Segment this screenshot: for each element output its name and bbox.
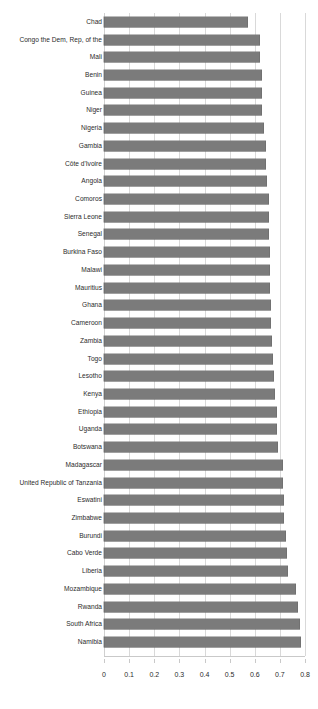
bar[interactable] xyxy=(104,247,270,258)
bar[interactable] xyxy=(104,477,283,488)
x-tick-label: 0 xyxy=(102,671,106,678)
category-label: United Republic of Tanzania xyxy=(0,479,102,487)
category-label: Sierra Leone xyxy=(0,213,102,221)
bar[interactable] xyxy=(104,335,272,346)
category-label: Eswatini xyxy=(0,496,102,504)
bar[interactable] xyxy=(104,140,266,151)
chart-row: Ghana xyxy=(0,297,318,315)
bar[interactable] xyxy=(104,513,284,524)
chart-row: Malawi xyxy=(0,261,318,279)
category-label: Mauritius xyxy=(0,284,102,292)
chart-row: Namibia xyxy=(0,633,318,651)
category-label: Mozambique xyxy=(0,585,102,593)
bar[interactable] xyxy=(104,619,300,630)
category-label: Guinea xyxy=(0,89,102,97)
bar[interactable] xyxy=(104,495,284,506)
category-label: Senegal xyxy=(0,230,102,238)
chart-row: Congo the Dem, Rep, of the xyxy=(0,31,318,49)
category-label: South Africa xyxy=(0,620,102,628)
chart-row: Sierra Leone xyxy=(0,208,318,226)
category-label: Madagascar xyxy=(0,461,102,469)
category-label: Ghana xyxy=(0,301,102,309)
category-label: Mali xyxy=(0,53,102,61)
bar[interactable] xyxy=(104,371,274,382)
bar[interactable] xyxy=(104,16,248,27)
x-tick-label: 0.6 xyxy=(250,671,260,678)
chart-row: Liberia xyxy=(0,562,318,580)
bar[interactable] xyxy=(104,87,262,98)
x-tick-mark xyxy=(154,659,155,663)
category-label: Kenya xyxy=(0,390,102,398)
bar[interactable] xyxy=(104,264,270,275)
bar[interactable] xyxy=(104,318,271,329)
bar[interactable] xyxy=(104,176,267,187)
chart-row: Zimbabwe xyxy=(0,509,318,527)
category-label: Burkina Faso xyxy=(0,248,102,256)
category-label: Chad xyxy=(0,18,102,26)
bar[interactable] xyxy=(104,194,269,205)
x-tick-mark xyxy=(179,659,180,663)
x-tick-mark xyxy=(255,659,256,663)
x-tick-mark xyxy=(129,659,130,663)
bar[interactable] xyxy=(104,406,277,417)
bar[interactable] xyxy=(104,530,286,541)
bar[interactable] xyxy=(104,583,296,594)
chart-row: Côte d'Ivoire xyxy=(0,155,318,173)
category-label: Namibia xyxy=(0,638,102,646)
chart-row: Niger xyxy=(0,102,318,120)
chart-row: Nigeria xyxy=(0,119,318,137)
category-label: Côte d'Ivoire xyxy=(0,160,102,168)
bar[interactable] xyxy=(104,211,269,222)
category-label: Rwanda xyxy=(0,603,102,611)
bar[interactable] xyxy=(104,105,262,116)
category-label: Cabo Verde xyxy=(0,549,102,557)
bar[interactable] xyxy=(104,566,288,577)
x-tick-mark xyxy=(280,659,281,663)
category-label: Congo the Dem, Rep, of the xyxy=(0,36,102,44)
category-label: Togo xyxy=(0,355,102,363)
category-label: Benin xyxy=(0,71,102,79)
bar[interactable] xyxy=(104,459,283,470)
chart-row: United Republic of Tanzania xyxy=(0,474,318,492)
bar[interactable] xyxy=(104,282,270,293)
x-axis-tick-labels: 00.10.20.30.40.50.60.70.8 xyxy=(0,659,318,679)
chart-row: Kenya xyxy=(0,385,318,403)
bar[interactable] xyxy=(104,158,266,169)
category-label: Zambia xyxy=(0,337,102,345)
chart-row: Guinea xyxy=(0,84,318,102)
bar[interactable] xyxy=(104,52,260,63)
bar[interactable] xyxy=(104,601,298,612)
chart-row: Botswana xyxy=(0,438,318,456)
category-label: Malawi xyxy=(0,266,102,274)
chart-row: Cameroon xyxy=(0,314,318,332)
chart-row: Chad xyxy=(0,13,318,31)
chart-row: Rwanda xyxy=(0,598,318,616)
chart-row: Togo xyxy=(0,350,318,368)
bar[interactable] xyxy=(104,34,260,45)
bar[interactable] xyxy=(104,70,262,81)
bar[interactable] xyxy=(104,229,269,240)
x-tick-label: 0.5 xyxy=(225,671,235,678)
x-tick-mark xyxy=(205,659,206,663)
bar[interactable] xyxy=(104,123,264,134)
category-label: Burundi xyxy=(0,532,102,540)
bar[interactable] xyxy=(104,388,275,399)
bar[interactable] xyxy=(104,637,301,648)
chart-row: Benin xyxy=(0,66,318,84)
bar[interactable] xyxy=(104,300,271,311)
bar[interactable] xyxy=(104,442,278,453)
chart-row: Senegal xyxy=(0,226,318,244)
category-label: Ethiopia xyxy=(0,408,102,416)
category-label: Niger xyxy=(0,106,102,114)
x-tick-label: 0.7 xyxy=(275,671,285,678)
category-label: Gambia xyxy=(0,142,102,150)
category-label: Nigeria xyxy=(0,124,102,132)
bar[interactable] xyxy=(104,548,287,559)
bar[interactable] xyxy=(104,353,273,364)
bar[interactable] xyxy=(104,424,277,435)
x-tick-mark xyxy=(104,659,105,663)
chart-row: Eswatini xyxy=(0,491,318,509)
chart-row: Mauritius xyxy=(0,279,318,297)
chart-row: Angola xyxy=(0,172,318,190)
chart-row: Gambia xyxy=(0,137,318,155)
